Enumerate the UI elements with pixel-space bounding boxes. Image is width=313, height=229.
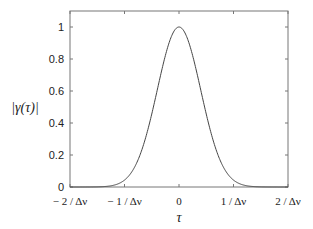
series-line (70, 27, 288, 187)
y-tick-label: 0 (58, 181, 64, 193)
x-tick-label: 2 / Δν (275, 195, 301, 207)
y-axis: 00.20.40.60.81 (49, 21, 288, 193)
y-tick-label: 0.8 (49, 53, 64, 65)
x-axis-label: τ (176, 210, 182, 225)
y-tick-label: 1 (58, 21, 64, 33)
x-axis: − 2 / Δν− 1 / Δν01 / Δν2 / Δν (53, 11, 301, 207)
x-tick-label: 0 (176, 195, 182, 207)
y-tick-label: 0.4 (49, 117, 64, 129)
plot-frame (70, 11, 288, 187)
x-tick-label: − 2 / Δν (53, 195, 87, 207)
x-tick-label: − 1 / Δν (107, 195, 141, 207)
y-axis-label: |γ(τ)| (11, 100, 39, 116)
y-tick-label: 0.2 (49, 149, 64, 161)
y-tick-label: 0.6 (49, 85, 64, 97)
chart: 00.20.40.60.81 − 2 / Δν− 1 / Δν01 / Δν2 … (0, 0, 313, 229)
x-tick-label: 1 / Δν (221, 195, 247, 207)
plot-area (70, 11, 288, 187)
